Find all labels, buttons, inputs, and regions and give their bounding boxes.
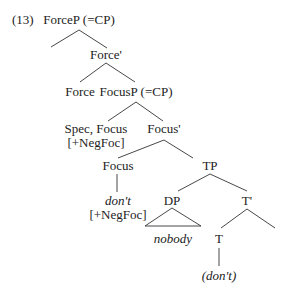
node-focus-bar: Focus': [147, 121, 180, 136]
edge-t-bar-t: [221, 209, 247, 228]
edge-forcep-force-bar: [79, 30, 107, 48]
node-t-word: (don't): [202, 268, 237, 283]
edge-focusp-spec: [108, 102, 136, 121]
node-focus-feature: [+NegFoc]: [89, 207, 146, 222]
node-t: T: [215, 231, 223, 246]
edge-focusp-focus-bar: [136, 102, 163, 121]
node-tp: TP: [202, 158, 217, 173]
node-focus: Focus: [102, 158, 133, 173]
edge-tp-dp: [178, 174, 210, 191]
node-force-bar: Force': [90, 47, 122, 62]
dp-triangle: [145, 208, 201, 226]
node-forcep: ForceP (=CP): [43, 12, 115, 27]
node-spec-focus-feature: [+NegFoc]: [67, 135, 124, 150]
edge-focus-bar-tp: [164, 140, 193, 158]
syntax-tree: (13) ForceP (=CP) Force' Force FocusP (=…: [0, 0, 288, 294]
edge-tp-t-bar: [210, 174, 247, 191]
edge-t-bar-complement: [247, 209, 275, 228]
edge-forcep-spec: [51, 30, 79, 47]
node-t-bar: T': [242, 193, 252, 208]
node-focus-word: don't: [105, 193, 131, 208]
node-force: Force: [65, 84, 95, 99]
example-number: (13): [12, 12, 34, 27]
node-dp-word: nobody: [154, 231, 193, 246]
node-spec-focus: Spec, Focus: [65, 121, 128, 136]
edge-force-bar-focusp: [106, 63, 135, 82]
edge-force-bar-force: [80, 63, 106, 82]
node-dp: DP: [164, 193, 181, 208]
node-focusp: FocusP (=CP): [100, 84, 173, 99]
edge-focus-bar-focus: [118, 140, 164, 158]
